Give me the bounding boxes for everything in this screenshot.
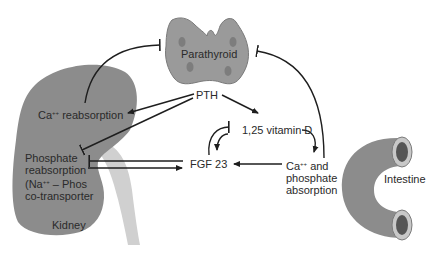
diagram-canvas [0,0,444,256]
label-intestine: Intestine [384,173,426,185]
label-kidney: Kidney [52,219,86,231]
arrow-vitamin-d-to-fgf23 [217,134,228,150]
label-ca-phosphate-absorption: Ca++ and phosphate absorption [286,158,337,196]
phosphate-line-4: co-transporter [25,190,93,202]
absorption-line-3: absorption [286,184,337,196]
gland-dot-icon [187,62,194,72]
gland-dot-icon [230,37,237,47]
phosphate-line-2: reabsorption [25,164,93,176]
label-fgf23: FGF 23 [190,158,227,170]
label-pth: PTH [196,89,218,101]
gland-dot-icon [179,37,186,47]
phosphate-line-3: (Na++ – Phos [25,176,93,190]
absorption-line-2: phosphate [286,172,337,184]
na-prefix: (Na [25,178,43,190]
inhibit-arrow-absorption-to-parathyroid [257,51,324,158]
phos-suffix: – Phos [50,178,87,190]
label-phosphate-reabsorption: Phosphate reabsorption (Na++ – Phos co-t… [25,152,93,202]
ca-reabsorption-text: reabsorption [62,109,123,121]
intestine-shape [342,137,412,240]
label-vitamin-d: 1,25 vitamin D [242,124,312,136]
absorption-line-1: Ca++ and [286,158,337,172]
ca-prefix: Ca [286,160,300,172]
ca-prefix: Ca [38,109,52,121]
label-ca-reabsorption: Ca++ reabsorption [38,107,123,121]
label-parathyroid: Parathyroid [181,48,237,60]
phosphate-line-1: Phosphate [25,152,93,164]
arrow-pth-to-ca-reabsorption [128,94,194,113]
gland-dot-icon [225,66,232,76]
na-charge: ++ [43,179,50,185]
ca-charge: ++ [52,110,59,116]
arrow-pth-to-vitamin-d [222,95,258,113]
kidney-shape [13,65,137,236]
and-text: and [307,160,328,172]
